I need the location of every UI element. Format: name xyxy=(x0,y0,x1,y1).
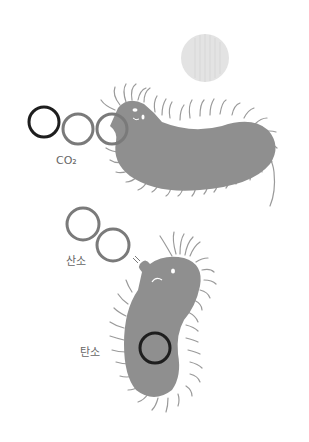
bacterium-bottom-icon xyxy=(110,232,216,412)
light-circle-icon xyxy=(181,34,229,82)
co2-label: CO₂ xyxy=(56,154,77,167)
illustration-canvas xyxy=(0,0,309,442)
illustration: CO₂ 산소 탄소 xyxy=(0,0,309,442)
bacterium-top-icon xyxy=(101,84,277,206)
carbon-label: 탄소 xyxy=(80,343,100,359)
oxygen-label: 산소 xyxy=(66,252,86,268)
